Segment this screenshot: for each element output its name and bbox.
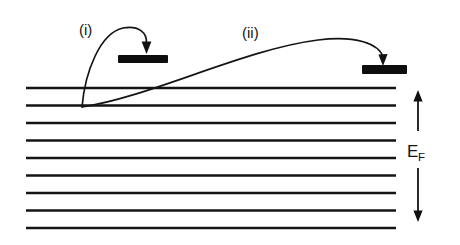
transition-i-arrowhead [142,42,152,55]
transition-ii-curve [82,39,383,107]
right-state-bar [362,65,407,74]
fermi-down-arrowhead [413,211,422,223]
energy-level-lines [26,88,396,228]
diagram-canvas: (i) (ii) E F [0,0,460,245]
fermi-energy-subscript: F [418,151,425,163]
transition-i-trajectory [82,27,151,107]
transition-ii-label: (ii) [242,24,259,41]
fermi-energy-label: E [407,142,418,161]
transition-i-curve [82,27,147,107]
transition-ii-arrowhead [378,54,387,66]
left-state-bar [118,55,168,63]
energy-level-diagram: (i) (ii) E F [0,0,460,245]
transition-ii-trajectory [82,39,388,107]
transition-i-label: (i) [79,21,92,38]
fermi-up-arrowhead [413,90,422,102]
adsorbate-state-bars [118,55,407,74]
